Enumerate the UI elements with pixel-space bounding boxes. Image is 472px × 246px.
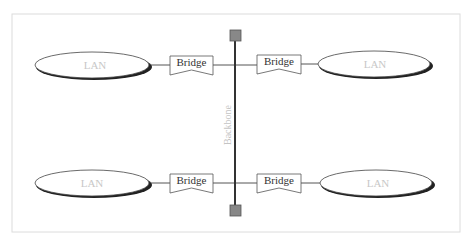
- lan-bottom-left: LAN: [35, 170, 152, 198]
- bridge-label: Bridge: [177, 174, 207, 186]
- lan-top-right: LAN: [318, 51, 433, 79]
- bridge-label: Bridge: [264, 174, 294, 186]
- bridge-label: Bridge: [264, 55, 294, 67]
- backbone-label: Backbone: [222, 104, 233, 145]
- bridge-label: Bridge: [177, 56, 207, 68]
- backbone-terminator-top: [230, 30, 241, 41]
- bridged-lan-diagram: Backbone LAN LAN LAN LAN Bridge Bridge B…: [0, 0, 472, 246]
- lan-label: LAN: [364, 58, 387, 70]
- backbone-terminator-bottom: [230, 205, 241, 216]
- lan-label: LAN: [367, 177, 390, 189]
- lan-label: LAN: [81, 177, 104, 189]
- lan-label: LAN: [84, 59, 107, 71]
- lan-bottom-right: LAN: [320, 170, 435, 198]
- lan-top-left: LAN: [35, 52, 152, 80]
